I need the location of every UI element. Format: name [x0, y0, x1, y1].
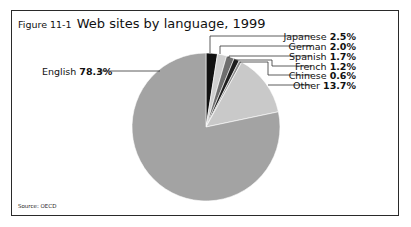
label-english: English 78.3%: [42, 66, 112, 77]
source-note: Source: OECD: [18, 203, 56, 209]
label-other: Other 13.7%: [293, 80, 356, 91]
pie-slices: [132, 53, 280, 201]
